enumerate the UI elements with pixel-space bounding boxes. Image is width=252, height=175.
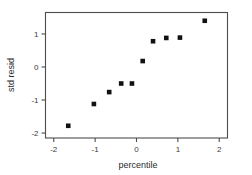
y-tick-label-1: 0 (34, 63, 39, 72)
data-point (140, 59, 145, 64)
x-tick-label-2: 0 (134, 145, 139, 154)
y-tick-label-2: -1 (31, 96, 39, 105)
y-tick-label-3: -2 (31, 129, 39, 138)
x-tick-label-0: -2 (50, 145, 58, 154)
data-point (107, 90, 112, 95)
y-tick-label-0: 1 (34, 30, 39, 39)
y-axis-title: std resid (6, 58, 16, 92)
data-point (66, 123, 71, 128)
x-tick-label-4: 2 (217, 145, 222, 154)
x-tick-label-3: 1 (176, 145, 181, 154)
data-point (130, 81, 135, 86)
x-tick-label-1: -1 (92, 145, 100, 154)
x-axis-title: percentile (118, 160, 157, 170)
plot-frame (46, 13, 228, 139)
scatter-plot-svg: -2-1012 10-1-2 percentile std resid (0, 0, 252, 175)
data-point (119, 81, 124, 86)
data-point (92, 102, 97, 107)
qq-plot-figure: -2-1012 10-1-2 percentile std resid (0, 0, 252, 175)
data-point (151, 39, 156, 44)
data-point (164, 36, 169, 41)
data-point (202, 18, 207, 23)
data-point (178, 35, 183, 40)
